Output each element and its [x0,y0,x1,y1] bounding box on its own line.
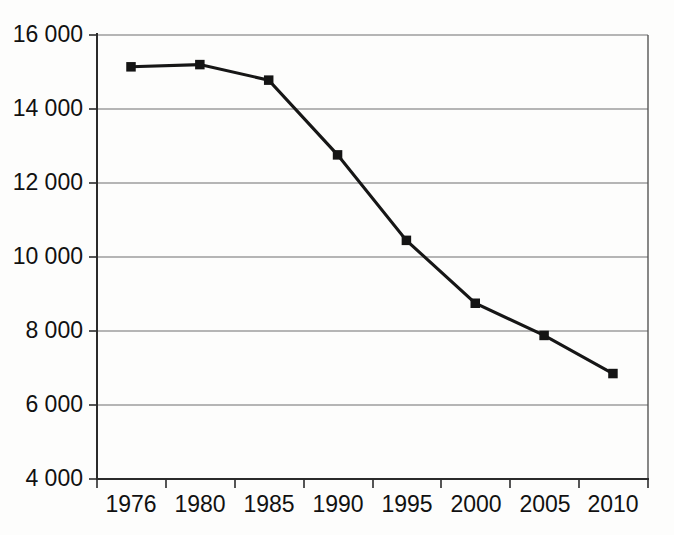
y-tick-label-16000: 16 000 [13,21,83,47]
x-tick-label-1990: 1990 [312,491,363,517]
y-tick-label-4000: 4 000 [25,465,83,491]
line-chart-figure: 16 000 14 000 12 000 10 000 8 000 6 000 … [0,0,674,535]
data-point-marker [126,62,136,72]
data-point-marker [608,369,618,379]
x-tick-label-2000: 2000 [450,491,501,517]
data-point-marker [539,331,549,341]
y-tick-label-8000: 8 000 [25,317,83,343]
data-point-marker [264,75,274,85]
data-point-marker [195,60,205,70]
data-point-marker [333,150,343,160]
chart-background [0,0,674,535]
y-tick-label-6000: 6 000 [25,391,83,417]
x-tick-label-1976: 1976 [105,491,156,517]
data-point-marker [471,299,481,309]
x-tick-label-1985: 1985 [243,491,294,517]
y-tick-label-14000: 14 000 [13,95,83,121]
chart-page: 16 000 14 000 12 000 10 000 8 000 6 000 … [0,0,674,535]
x-tick-label-2005: 2005 [519,491,570,517]
x-tick-label-1980: 1980 [174,491,225,517]
chart-svg: 16 000 14 000 12 000 10 000 8 000 6 000 … [0,0,674,535]
y-tick-label-12000: 12 000 [13,169,83,195]
x-tick-label-2010: 2010 [587,491,638,517]
y-tick-label-10000: 10 000 [13,243,83,269]
x-tick-label-1995: 1995 [381,491,432,517]
data-point-marker [402,236,412,246]
